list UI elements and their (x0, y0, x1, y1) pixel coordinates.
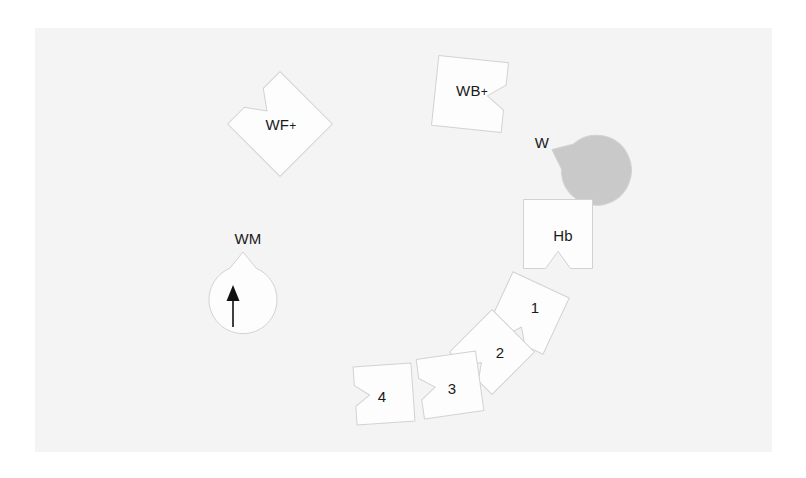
puzzle-piece-wm: WM (209, 230, 277, 334)
puzzle-piece-hb: Hb (524, 200, 593, 269)
puzzle-piece-wf-plus: WF+ (228, 72, 333, 177)
piece-label-piece-3: 3 (448, 380, 457, 397)
puzzle-piece-piece-4: 4 (353, 363, 415, 425)
piece-label-piece-1: 1 (531, 299, 540, 316)
puzzle-pieces-layer: WF+WB+WHb1234WM (209, 56, 643, 425)
piece-label-superscript-wb-plus: + (481, 85, 488, 99)
piece-label-piece-4: 4 (378, 388, 387, 405)
piece-label-piece-2: 2 (496, 344, 505, 361)
piece-label-wf-plus: WF+ (266, 116, 297, 134)
puzzle-piece-piece-3: 3 (416, 351, 484, 419)
piece-label-w: W (535, 134, 550, 151)
piece-label-superscript-wf-plus: + (289, 119, 296, 133)
piece-label-wm: WM (234, 230, 261, 247)
piece-label-wb-plus: WB+ (456, 82, 488, 100)
piece-label-hb: Hb (553, 227, 573, 244)
figure-canvas: WF+WB+WHb1234WM (0, 0, 806, 478)
puzzle-piece-wb-plus: WB+ (432, 56, 509, 133)
diagram-stage: WF+WB+WHb1234WM (0, 0, 806, 478)
piece-outline-wm (209, 252, 277, 334)
